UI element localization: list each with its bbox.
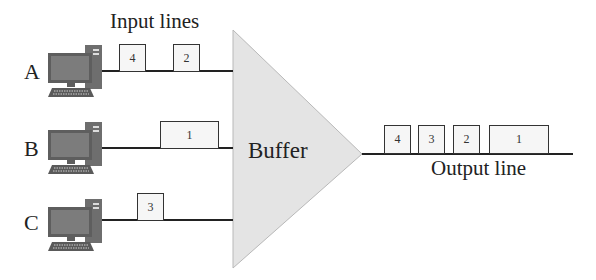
output-packet-3: 3: [418, 125, 445, 154]
node-label-a: A: [24, 61, 40, 83]
output-line-label: Output line: [431, 158, 526, 179]
output-packet-2: 2: [453, 125, 480, 154]
computer-b-icon: [48, 122, 102, 174]
packet-b-1: 1: [160, 121, 219, 149]
buffer-label: Buffer: [248, 139, 308, 162]
packet-c-3: 3: [137, 193, 164, 221]
input-lines-title: Input lines: [110, 11, 199, 32]
computer-a-icon: [48, 45, 102, 97]
output-packet-4: 4: [384, 125, 411, 154]
packet-a-2: 2: [173, 44, 200, 72]
node-label-b: B: [24, 138, 39, 160]
node-label-c: C: [24, 212, 39, 234]
packet-a-4: 4: [119, 44, 146, 72]
output-packet-1: 1: [489, 125, 549, 154]
computer-c-icon: [48, 199, 102, 251]
